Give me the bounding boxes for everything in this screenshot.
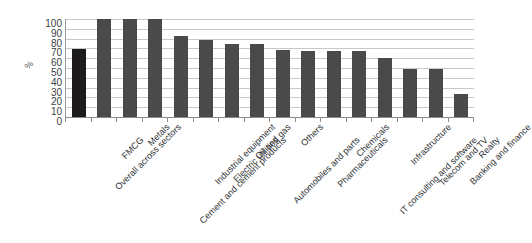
y-axis-tick-labels: 1009080706050403020100 bbox=[36, 13, 62, 123]
x-tick bbox=[218, 117, 219, 122]
bar bbox=[97, 19, 111, 117]
x-tick bbox=[91, 117, 92, 122]
bar bbox=[352, 51, 366, 117]
bar bbox=[250, 44, 264, 118]
bar bbox=[454, 94, 468, 117]
bar bbox=[225, 44, 239, 118]
x-tick bbox=[295, 117, 296, 122]
bar bbox=[174, 36, 188, 117]
x-tick bbox=[65, 117, 66, 122]
x-tick bbox=[320, 117, 321, 122]
bar bbox=[72, 49, 86, 117]
x-tick bbox=[371, 117, 372, 122]
x-tick bbox=[244, 117, 245, 122]
bar bbox=[276, 50, 290, 117]
bar bbox=[378, 58, 392, 117]
bar bbox=[403, 69, 417, 117]
plot-area bbox=[65, 19, 474, 117]
x-tick bbox=[397, 117, 398, 122]
x-tick bbox=[346, 117, 347, 122]
x-tick bbox=[116, 117, 117, 122]
x-tick bbox=[448, 117, 449, 122]
x-axis-label: IT consulting and software bbox=[398, 135, 479, 216]
bar bbox=[148, 19, 162, 117]
x-tick bbox=[142, 117, 143, 122]
x-tick bbox=[473, 117, 474, 122]
y-tick-label: 0 bbox=[56, 117, 62, 127]
bar bbox=[199, 40, 213, 117]
bar bbox=[301, 51, 315, 117]
bar bbox=[123, 19, 137, 117]
bar bbox=[327, 51, 341, 117]
x-tick bbox=[193, 117, 194, 122]
x-tick bbox=[167, 117, 168, 122]
bar bbox=[429, 69, 443, 117]
x-axis-label: Others bbox=[299, 122, 325, 148]
x-tick bbox=[422, 117, 423, 122]
bars-group bbox=[66, 19, 474, 117]
